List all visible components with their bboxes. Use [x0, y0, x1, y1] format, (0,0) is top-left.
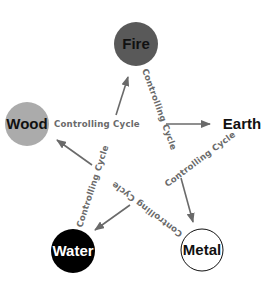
edge-label-fire-metal: Controlling Cycle — [140, 67, 179, 151]
arrow-metal-wood — [57, 140, 92, 165]
arrow-earth-water — [95, 205, 130, 230]
earth-label: Earth — [223, 115, 261, 132]
node-metal: Metal — [181, 229, 223, 271]
edge-wood-to-earth: Controlling Cycle — [54, 119, 210, 129]
edge-earth-to-water: Controlling Cycle — [95, 129, 237, 230]
node-wood: Wood — [5, 102, 49, 146]
arrow-water-fire — [116, 77, 128, 115]
node-water: Water — [51, 229, 95, 273]
node-fire: Fire — [114, 22, 158, 66]
fire-label: Fire — [122, 35, 150, 52]
edge-fire-to-metal: Controlling Cycle — [140, 67, 193, 222]
water-label: Water — [52, 242, 93, 259]
metal-label: Metal — [183, 241, 221, 258]
node-earth: Earth — [223, 115, 261, 132]
arrow-fire-metal — [181, 178, 193, 222]
five-elements-diagram: Controlling Cycle Controlling Cycle Cont… — [0, 0, 276, 285]
edge-label-wood-earth: Controlling Cycle — [54, 119, 140, 129]
edge-water-to-fire: Controlling Cycle — [74, 77, 128, 229]
edge-label-metal-wood: Controlling Cycle — [110, 180, 185, 240]
wood-label: Wood — [6, 115, 47, 132]
